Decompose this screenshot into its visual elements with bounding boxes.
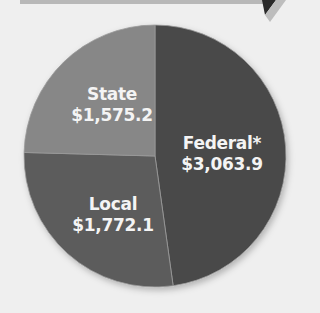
slice-label-federal: Federal* $3,063.9 — [172, 133, 272, 175]
federal-value: $3,063.9 — [172, 154, 272, 175]
state-value: $1,575.2 — [62, 105, 162, 126]
slice-label-state: State $1,575.2 — [62, 84, 162, 126]
state-name: State — [62, 84, 162, 105]
local-value: $1,772.1 — [63, 215, 163, 236]
slice-label-local: Local $1,772.1 — [63, 194, 163, 236]
federal-name: Federal* — [172, 133, 272, 154]
local-name: Local — [63, 194, 163, 215]
